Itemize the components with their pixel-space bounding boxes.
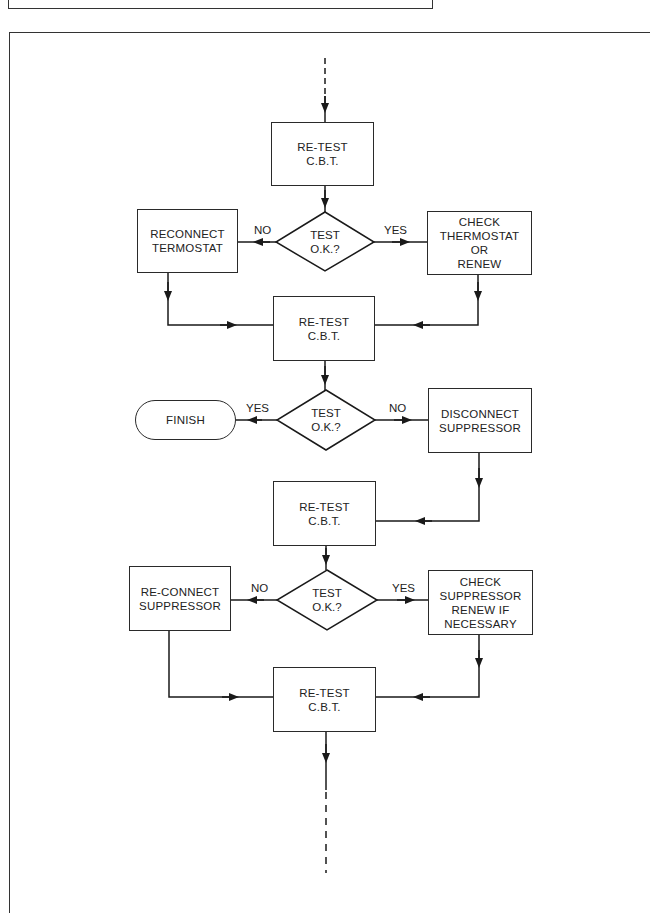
finish-terminal-node: FINISH <box>135 400 236 440</box>
retest-cbt-node-1: RE-TESTC.B.T. <box>271 122 374 186</box>
node-text: THERMOSTAT <box>440 229 520 243</box>
node-text: RE-TEST <box>299 500 350 514</box>
retest-cbt-node-4: RE-TESTC.B.T. <box>273 667 376 732</box>
node-text: RE-TEST <box>299 315 350 329</box>
retest-cbt-node-2: RE-TESTC.B.T. <box>273 296 375 361</box>
node-text: C.B.T. <box>299 514 350 528</box>
node-text: CHECK <box>440 575 522 589</box>
node-text: RE-TEST <box>299 686 350 700</box>
node-text: FINISH <box>166 413 205 427</box>
node-text: RE-TEST <box>297 140 348 154</box>
edge-label-no: NO <box>389 402 406 414</box>
node-text: RECONNECT <box>150 227 225 241</box>
node-text: OR <box>440 243 520 257</box>
node-text: C.B.T. <box>299 700 350 714</box>
edge-label-yes: YES <box>246 402 269 414</box>
node-text: TERMOSTAT <box>150 241 225 255</box>
check-thermostat-node: CHECKTHERMOSTATORRENEW <box>427 211 532 275</box>
node-text: CHECK <box>440 215 520 229</box>
node-text: RENEW <box>440 257 520 271</box>
decision-label-2: TESTO.K.? <box>291 406 361 434</box>
reconnect-thermostat-node: RECONNECTTERMOSTAT <box>137 209 238 273</box>
edge-label-yes: YES <box>384 224 407 236</box>
node-text: DISCONNECT <box>439 407 521 421</box>
decision-label-3: TESTO.K.? <box>292 586 362 614</box>
decision-label-1: TESTO.K.? <box>290 228 360 256</box>
edge-label-no: NO <box>254 224 271 236</box>
node-text: SUPPRESSOR <box>440 589 522 603</box>
node-text: SUPPRESSOR <box>439 421 521 435</box>
reconnect-suppressor-node: RE-CONNECTSUPPRESSOR <box>129 566 231 631</box>
node-text: RENEW IF <box>440 603 522 617</box>
disconnect-suppressor-node: DISCONNECTSUPPRESSOR <box>428 388 532 453</box>
check-suppressor-node: CHECKSUPPRESSORRENEW IFNECESSARY <box>428 570 533 635</box>
node-text: RE-CONNECT <box>139 585 221 599</box>
node-text: C.B.T. <box>297 154 348 168</box>
edge-label-no: NO <box>251 582 268 594</box>
node-text: NECESSARY <box>440 617 522 631</box>
node-text: C.B.T. <box>299 329 350 343</box>
node-text: SUPPRESSOR <box>139 599 221 613</box>
retest-cbt-node-3: RE-TESTC.B.T. <box>273 481 376 546</box>
edge-label-yes: YES <box>392 582 415 594</box>
